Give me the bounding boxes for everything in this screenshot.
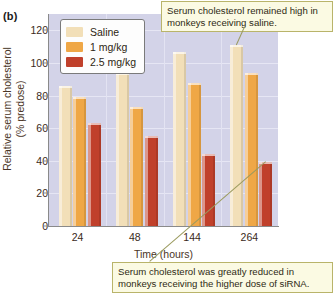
bar-cap — [173, 52, 186, 54]
y-tick-label: 80 — [4, 90, 48, 102]
bar-cap — [88, 123, 101, 125]
bar-shadow — [199, 83, 201, 227]
bar-cap — [145, 136, 158, 138]
legend-item: 2.5 mg/kg — [66, 54, 136, 69]
y-tick-label: 120 — [4, 24, 48, 36]
bar — [130, 107, 143, 226]
bar-cap — [188, 83, 201, 85]
bar-shadow — [70, 86, 72, 226]
bar-highlight — [59, 86, 62, 226]
y-tick-label: 0 — [4, 220, 48, 232]
x-tick-label: 48 — [110, 231, 160, 243]
bar-highlight — [73, 97, 76, 226]
bar-shadow — [127, 73, 129, 226]
bar — [73, 97, 86, 226]
bar-shadow — [270, 162, 272, 226]
bar-highlight — [259, 162, 262, 226]
bar — [173, 52, 186, 226]
group-divider — [221, 14, 222, 226]
legend-item: Saline — [66, 24, 136, 39]
bar-highlight — [130, 107, 133, 226]
legend-swatch — [66, 57, 83, 67]
legend-label: Saline — [90, 26, 119, 38]
y-tick-label: 20 — [4, 187, 48, 199]
bar-highlight — [245, 73, 248, 226]
legend-label: 2.5 mg/kg — [90, 56, 136, 68]
bar-cap — [59, 86, 72, 88]
bar-cap — [202, 154, 215, 156]
bar-highlight — [188, 83, 191, 227]
bar-cap — [230, 45, 243, 47]
bar-shadow — [241, 45, 243, 226]
bar-highlight — [173, 52, 176, 226]
bar — [59, 86, 72, 226]
x-tick-label: 264 — [224, 231, 274, 243]
legend-item: 1 mg/kg — [66, 39, 136, 54]
bar-shadow — [99, 123, 101, 226]
legend-swatch — [66, 27, 83, 37]
bar — [88, 123, 101, 226]
bar-shadow — [213, 154, 215, 226]
bar — [145, 136, 158, 226]
y-tick-label: 100 — [4, 57, 48, 69]
bar — [245, 73, 258, 226]
x-axis-line — [48, 226, 279, 227]
bar-shadow — [84, 97, 86, 226]
bar-shadow — [256, 73, 258, 226]
bar — [116, 73, 129, 226]
bar-cap — [245, 73, 258, 75]
bar — [259, 162, 272, 226]
legend-label: 1 mg/kg — [90, 41, 127, 53]
annotation-callout-high-dose: Serum cholesterol was greatly reduced in… — [112, 262, 333, 293]
y-tick-label: 40 — [4, 155, 48, 167]
legend-swatch — [66, 42, 83, 52]
bar-shadow — [141, 107, 143, 226]
bar-highlight — [88, 123, 91, 226]
x-tick-label: 24 — [53, 231, 103, 243]
bar-highlight — [145, 136, 148, 226]
annotation-callout-saline: Serum cholesterol remained high in monke… — [161, 1, 333, 32]
bar-highlight — [116, 73, 119, 226]
bar-cap — [130, 107, 143, 109]
y-tick-label: 60 — [4, 122, 48, 134]
group-divider — [164, 14, 165, 226]
bar — [230, 45, 243, 226]
bar-cap — [73, 97, 86, 99]
bar — [188, 83, 201, 227]
legend: Saline1 mg/kg2.5 mg/kg — [60, 19, 145, 74]
y-axis-tick-labels: 020406080100120 — [0, 0, 48, 293]
bar-shadow — [184, 52, 186, 226]
bar-highlight — [230, 45, 233, 226]
bar-shadow — [156, 136, 158, 226]
x-tick-label: 144 — [167, 231, 217, 243]
